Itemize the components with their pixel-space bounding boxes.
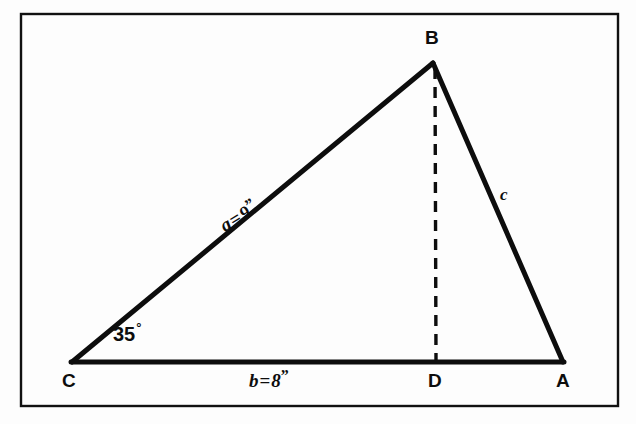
side-c-label: c (500, 186, 508, 203)
vertex-label-d: D (428, 371, 442, 390)
vertex-label-a: A (556, 371, 570, 390)
line-side-c (433, 63, 563, 362)
side-b-unit: ” (281, 367, 288, 384)
degree-symbol-icon: ° (136, 320, 141, 335)
side-b-measure-label: b=8” (249, 368, 288, 390)
figure-border-frame (21, 14, 618, 406)
angle-value: 35 (113, 323, 135, 345)
side-b-variable: b (249, 370, 259, 391)
vertex-label-b: B (425, 28, 439, 47)
side-b-equals: = (259, 370, 272, 391)
triangle-diagram (0, 0, 636, 424)
angle-label-c: 35° (113, 321, 141, 344)
figure-canvas: B C D A a=9” b=8” c 35° (0, 0, 636, 424)
side-b-value: 8 (271, 370, 281, 391)
line-altitude-bd (435, 68, 436, 360)
vertex-label-c: C (62, 371, 76, 390)
